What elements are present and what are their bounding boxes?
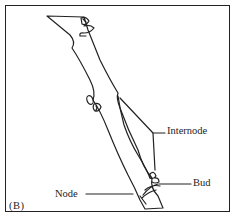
internode-leader-b: [153, 133, 155, 170]
internode-leader-a: [120, 98, 165, 133]
internode-boundary: [118, 96, 150, 178]
middle-node-scar-1: [86, 95, 95, 106]
bud-label: Bud: [193, 178, 211, 189]
internode-label: Internode: [167, 126, 207, 137]
node-label: Node: [55, 189, 78, 200]
middle-node-scar-2: [93, 103, 101, 111]
stem-left-edge: [47, 16, 163, 209]
panel-label: (B): [9, 201, 25, 212]
bottom-bud-icon: [140, 172, 160, 204]
